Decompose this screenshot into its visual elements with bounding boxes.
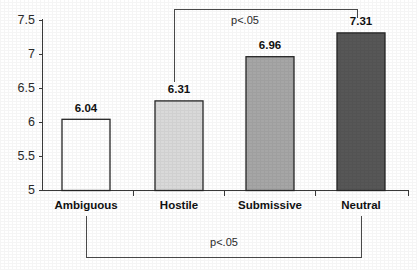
bar-submissive	[246, 57, 294, 191]
x-category-label-submissive: Submissive	[238, 199, 302, 211]
x-category-label-neutral: Neutral	[341, 199, 381, 211]
bar-value-label-submissive: 6.96	[259, 39, 281, 51]
y-tick-label-5-5: 5.5	[18, 149, 35, 163]
x-category-label-hostile: Hostile	[160, 199, 198, 211]
y-tick-label-5: 5	[28, 183, 35, 197]
bar-value-label-ambiguous: 6.04	[75, 102, 98, 114]
y-tick-label-6: 6	[28, 115, 35, 129]
chart-canvas: 5 5.5 6 6.5 7 7.5 6.04 6.31 6.96 7.31 Am…	[0, 0, 417, 270]
bar-hostile	[155, 101, 203, 191]
y-tick-label-6-5: 6.5	[18, 81, 35, 95]
bar-neutral	[337, 33, 385, 191]
bar-ambiguous	[62, 119, 110, 190]
bar-value-label-hostile: 6.31	[168, 83, 191, 95]
significance-label-top: p<.05	[231, 14, 259, 26]
x-category-label-ambiguous: Ambiguous	[54, 199, 117, 211]
y-tick-label-7: 7	[28, 47, 35, 61]
significance-label-bottom: p<.05	[210, 236, 238, 248]
bar-value-label-neutral: 7.31	[350, 15, 373, 27]
y-tick-label-7-5: 7.5	[18, 13, 35, 27]
bar-chart: 5 5.5 6 6.5 7 7.5 6.04 6.31 6.96 7.31 Am…	[0, 0, 417, 270]
